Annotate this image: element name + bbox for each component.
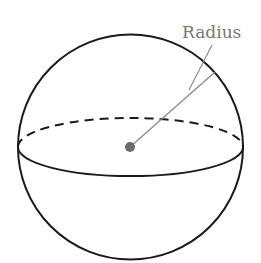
- sphere-diagram: Radius: [0, 0, 261, 263]
- center-dot: [125, 142, 135, 152]
- radius-label: Radius: [182, 22, 241, 42]
- radius-line: [130, 72, 215, 147]
- label-leader-line: [189, 45, 212, 90]
